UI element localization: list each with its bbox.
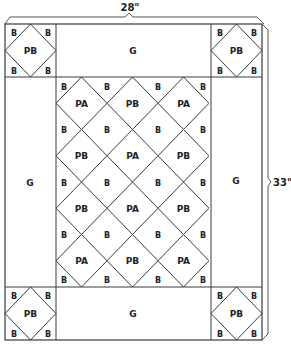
- width-label: 28": [120, 2, 139, 13]
- setting-piece-label: B: [155, 179, 161, 188]
- setting-piece-label: B: [61, 276, 67, 285]
- diamond-block-label: PB: [177, 151, 191, 161]
- setting-piece-label: B: [61, 83, 67, 92]
- corner-triangle-label: B: [45, 67, 51, 76]
- diamond-block-label: PB: [177, 204, 191, 214]
- corner-triangle-label: B: [217, 330, 223, 339]
- setting-piece-label: B: [104, 83, 110, 92]
- corner-triangle-label: B: [217, 67, 223, 76]
- corner-triangle-label: B: [251, 29, 257, 38]
- quilt-diagram: 28" 33" PBBBBBPBBBBBPBBBBBPBBBBB PAPBPAP…: [0, 0, 291, 347]
- corner-triangle-label: B: [217, 292, 223, 301]
- center-square-label: PB: [24, 309, 38, 319]
- corner-triangle-label: B: [11, 292, 17, 301]
- right-border-label: G: [232, 176, 239, 186]
- diamond-block-label: PA: [126, 204, 139, 214]
- bottom-border-label: G: [129, 309, 136, 319]
- diamond-block-label: PA: [177, 256, 190, 266]
- height-label: 33": [273, 177, 291, 188]
- diamond-block-label: PA: [126, 151, 139, 161]
- corner-triangle-label: B: [11, 67, 17, 76]
- corner-triangle-label: B: [251, 292, 257, 301]
- corner-triangle-label: B: [251, 330, 257, 339]
- center-square-label: PB: [230, 309, 244, 319]
- width-dimension-bracket: [5, 13, 264, 24]
- diamond-block-label: PA: [75, 256, 88, 266]
- left-border-label: G: [26, 178, 33, 188]
- setting-piece-label: B: [155, 83, 161, 92]
- diamond-block-label: PB: [75, 151, 89, 161]
- setting-piece-label: B: [104, 126, 110, 135]
- corner-triangle-label: B: [11, 330, 17, 339]
- corner-triangle-label: B: [45, 330, 51, 339]
- setting-piece-label: B: [200, 276, 206, 285]
- setting-piece-label: B: [200, 231, 206, 240]
- setting-piece-label: B: [200, 83, 206, 92]
- diamond-block-label: PB: [75, 204, 89, 214]
- center-square-label: PB: [230, 46, 244, 56]
- setting-piece-label: B: [155, 231, 161, 240]
- top-border-label: G: [129, 46, 136, 56]
- corner-triangle-label: B: [251, 67, 257, 76]
- setting-piece-label: B: [155, 276, 161, 285]
- setting-piece-label: B: [61, 126, 67, 135]
- diamond-block-label: PA: [75, 99, 88, 109]
- setting-piece-label: B: [61, 179, 67, 188]
- center-square-label: PB: [24, 46, 38, 56]
- height-dimension-bracket: [262, 24, 271, 340]
- corner-triangle-label: B: [11, 29, 17, 38]
- diamond-block-label: PB: [126, 256, 140, 266]
- setting-piece-label: B: [104, 231, 110, 240]
- setting-piece-label: B: [200, 179, 206, 188]
- diamond-block-label: PB: [126, 99, 140, 109]
- diamond-block-label: PA: [177, 99, 190, 109]
- corner-triangle-label: B: [45, 292, 51, 301]
- corner-triangle-label: B: [217, 29, 223, 38]
- quilt-outline: [5, 24, 262, 340]
- setting-piece-label: B: [155, 126, 161, 135]
- setting-piece-label: B: [104, 179, 110, 188]
- setting-piece-label: B: [104, 276, 110, 285]
- setting-piece-label: B: [61, 231, 67, 240]
- corner-triangle-label: B: [45, 29, 51, 38]
- setting-piece-label: B: [200, 126, 206, 135]
